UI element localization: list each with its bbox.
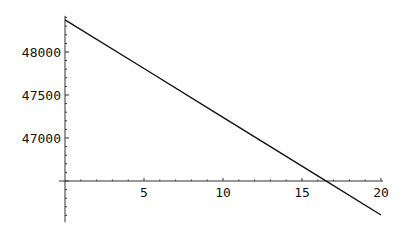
x-tick-label: 15 xyxy=(294,185,310,200)
x-tick-label: 5 xyxy=(140,185,148,200)
x-tick-label: 20 xyxy=(373,185,389,200)
y-tick-label: 47000 xyxy=(22,131,61,146)
y-tick-label: 48000 xyxy=(22,45,61,60)
chart: 5101520 470004750048000 xyxy=(0,0,408,226)
y-tick-label: 47500 xyxy=(22,88,61,103)
y-axis: 470004750048000 xyxy=(22,16,69,222)
x-tick-label: 10 xyxy=(215,185,231,200)
